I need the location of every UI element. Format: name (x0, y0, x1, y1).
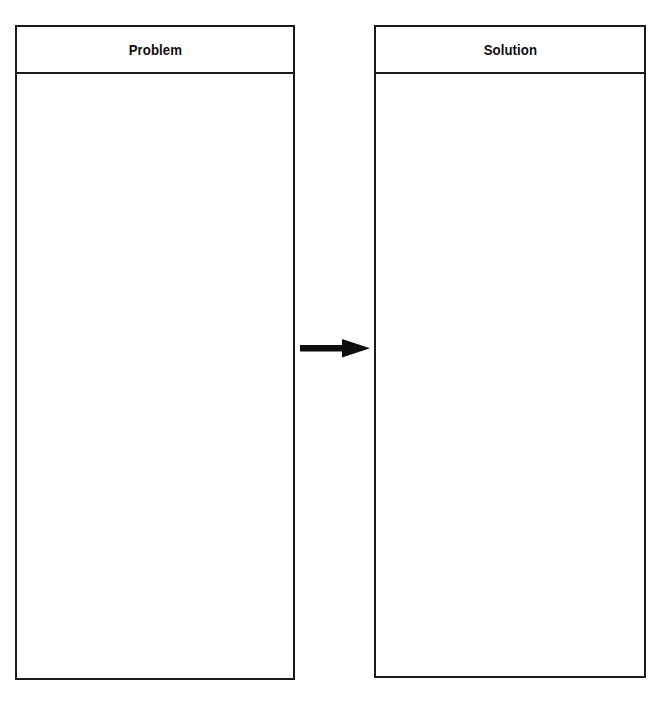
problem-panel-header: Problem (17, 27, 293, 74)
right-arrow-icon (298, 333, 372, 363)
problem-solution-diagram: Problem Solution (0, 0, 669, 702)
solution-panel-title: Solution (483, 41, 537, 58)
flow-arrow (298, 333, 372, 363)
problem-panel-body (17, 74, 293, 678)
solution-panel-body (376, 74, 644, 676)
problem-panel-title: Problem (128, 41, 181, 58)
solution-panel-header: Solution (376, 27, 644, 74)
solution-panel: Solution (374, 25, 646, 678)
problem-panel: Problem (15, 25, 295, 680)
